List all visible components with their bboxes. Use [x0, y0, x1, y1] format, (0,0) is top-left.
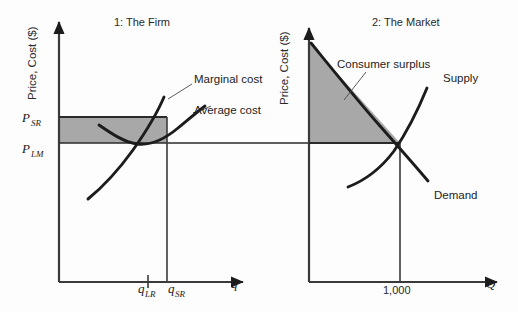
quantity-sr-label: q: [168, 281, 175, 296]
price-lm-label: P: [21, 141, 30, 156]
market-x-tick-label: 1,000: [383, 284, 411, 296]
marginal-cost-label: Marginal cost: [194, 73, 263, 85]
market-panel-title: 2: The Market: [372, 16, 440, 28]
figure-background: [0, 0, 518, 312]
market-y-axis-title: Price, Cost ($): [278, 31, 290, 105]
firm-x-axis-var: q: [231, 276, 238, 291]
price-lm-sublabel: LM: [30, 149, 44, 159]
quantity-lr-sublabel: LR: [144, 289, 156, 299]
firm-y-axis-title: Price, Cost ($): [26, 26, 38, 100]
price-sr-sublabel: SR: [31, 118, 42, 128]
price-sr-label: P: [21, 110, 30, 125]
economics-figure: 1: The Firm Price, Cost ($) P SR P LM q …: [0, 0, 518, 312]
supply-label: Supply: [443, 72, 478, 84]
market-x-axis-var: Q: [486, 276, 496, 291]
demand-label: Demand: [434, 189, 477, 201]
average-cost-label: Average cost: [194, 104, 262, 116]
quantity-sr-sublabel: SR: [175, 289, 186, 299]
firm-panel-title: 1: The Firm: [114, 16, 170, 28]
quantity-lr-label: q: [138, 281, 145, 296]
consumer-surplus-label: Consumer surplus: [337, 58, 431, 70]
